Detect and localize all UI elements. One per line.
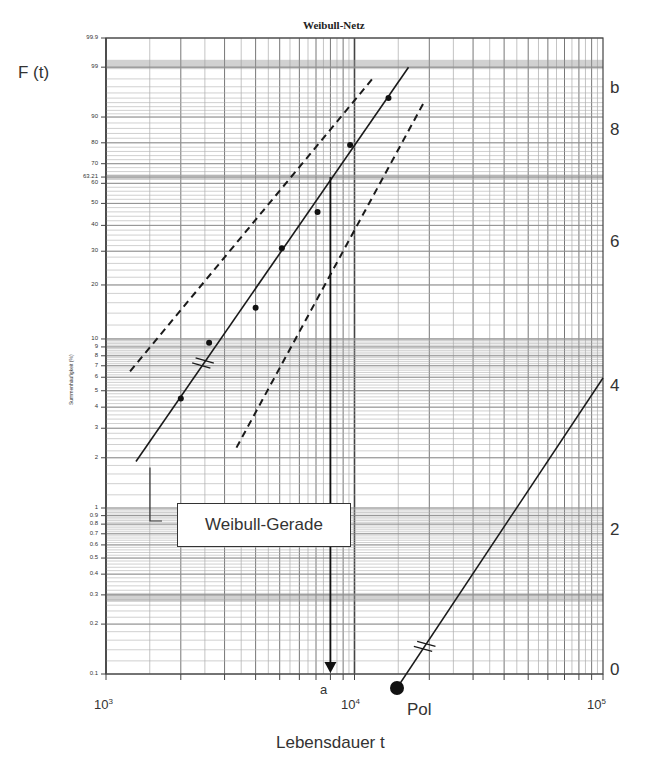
b-scale-tick-6: 6 xyxy=(610,232,619,252)
b-scale-tick-0: 0 xyxy=(610,660,619,680)
data-point xyxy=(178,396,184,402)
weibull-line xyxy=(136,67,409,461)
y-tick-label: 60 xyxy=(68,179,98,185)
b-scale-tick-2: 2 xyxy=(610,520,619,540)
y-tick-label: 0.1 xyxy=(68,670,98,676)
x-tick-1e5: 105 xyxy=(587,697,606,712)
y-tick-label: 4 xyxy=(68,403,98,409)
arrow-head-icon xyxy=(324,662,336,673)
b-scale-label: b xyxy=(610,78,619,98)
y-tick-label: 50 xyxy=(68,199,98,205)
y-tick-label: 0.3 xyxy=(68,591,98,597)
characteristic-life-marker: a xyxy=(320,682,327,697)
data-point xyxy=(347,142,353,148)
data-point xyxy=(315,209,321,215)
y-tick-label: 99.9 xyxy=(68,34,98,40)
b-scale-tick-4: 4 xyxy=(610,376,619,396)
parallel-marker-icon xyxy=(417,641,435,646)
grid-band xyxy=(106,60,603,69)
y-tick-label: 5 xyxy=(68,387,98,393)
y-tick-label: 80 xyxy=(68,139,98,145)
pole-label: Pol xyxy=(407,700,432,720)
y-tick-label: 9 xyxy=(68,343,98,349)
x-axis-label: Lebensdauer t xyxy=(276,733,385,753)
y-tick-label: 3 xyxy=(68,424,98,430)
y-tick-label: 1 xyxy=(68,504,98,510)
grid-band xyxy=(106,593,603,602)
y-axis-label: F (t) xyxy=(18,63,49,83)
data-point xyxy=(385,95,391,101)
y-tick-label: 90 xyxy=(68,113,98,119)
data-point xyxy=(279,245,285,251)
y-tick-label: 0.6 xyxy=(68,541,98,547)
y-tick-label: 99 xyxy=(68,63,98,69)
y-tick-label: 0.2 xyxy=(68,620,98,626)
y-tick-label: 0.4 xyxy=(68,570,98,576)
y-tick-label: 30 xyxy=(68,247,98,253)
y-tick-label: 6 xyxy=(68,373,98,379)
y-tick-label: 8 xyxy=(68,352,98,358)
y-tick-label: 7 xyxy=(68,362,98,368)
data-point xyxy=(206,340,212,346)
chart-title: Weibull-Netz xyxy=(303,19,365,31)
y-tick-label: 0.7 xyxy=(68,530,98,536)
y-tick-label: 40 xyxy=(68,221,98,227)
pole-dot xyxy=(390,681,404,695)
y-tick-label: 10 xyxy=(68,335,98,341)
y-tick-label: 2 xyxy=(68,454,98,460)
y-tick-label: 0.9 xyxy=(68,512,98,518)
weibull-grid xyxy=(106,38,603,674)
b-scale-tick-8: 8 xyxy=(610,120,619,140)
y-tick-label: 0.5 xyxy=(68,554,98,560)
legend-label: Weibull-Gerade xyxy=(205,515,323,535)
y-tick-label: 70 xyxy=(68,160,98,166)
weibull-line-legend: Weibull-Gerade xyxy=(177,503,351,547)
y-tick-label: 0.8 xyxy=(68,520,98,526)
y-tick-label: 63.21 xyxy=(68,173,98,179)
y-tick-label: 20 xyxy=(68,281,98,287)
legend-connector xyxy=(150,468,162,521)
data-point xyxy=(253,305,259,311)
x-tick-1e4: 104 xyxy=(341,697,360,712)
x-tick-1e3: 103 xyxy=(94,697,113,712)
